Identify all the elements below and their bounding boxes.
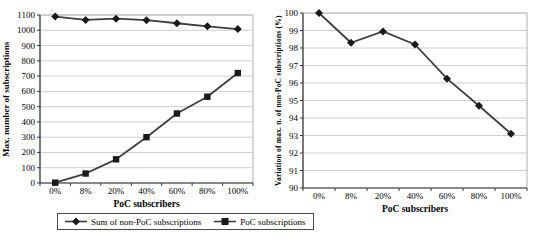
svg-text:95: 95 <box>289 96 299 106</box>
diamond-marker-icon <box>379 27 387 35</box>
svg-text:80%: 80% <box>199 186 216 196</box>
chart-panel-max-subscriptions: Max. number of subscriptions 01002003004… <box>0 0 272 241</box>
svg-text:800: 800 <box>22 56 36 66</box>
svg-text:80%: 80% <box>471 191 488 201</box>
svg-text:96: 96 <box>289 78 299 88</box>
svg-text:60%: 60% <box>169 186 186 196</box>
svg-text:99: 99 <box>289 26 299 36</box>
svg-text:93: 93 <box>289 131 299 141</box>
diamond-marker-icon <box>51 13 59 21</box>
svg-text:8%: 8% <box>80 186 93 196</box>
svg-text:300: 300 <box>22 132 36 142</box>
diamond-marker-icon <box>143 16 151 24</box>
svg-text:100%: 100% <box>227 186 249 196</box>
svg-text:91: 91 <box>289 166 298 176</box>
x-axis-label: PoC subscribers <box>113 199 180 209</box>
svg-text:900: 900 <box>22 41 36 51</box>
diamond-marker-icon <box>203 22 211 30</box>
square-marker-icon <box>174 110 180 116</box>
square-marker-icon <box>113 156 119 162</box>
gridlines <box>37 15 253 183</box>
diamond-marker-icon <box>234 25 242 33</box>
y-tick-labels: 010020030040050060070080090010001100 <box>17 10 36 188</box>
square-marker-icon <box>52 179 58 185</box>
square-marker-icon <box>214 217 236 226</box>
two-panel-line-chart-figure: Max. number of subscriptions 01002003004… <box>0 0 544 241</box>
svg-text:92: 92 <box>289 148 298 158</box>
square-marker-icon <box>204 94 210 100</box>
svg-text:94: 94 <box>289 113 299 123</box>
legend-item-non-poc: Sum of non-PoC subscriptions <box>65 217 201 227</box>
series-square <box>52 70 241 186</box>
plot-area-right: 909192939495969798991000%8%20%40%60%80%1… <box>272 0 544 225</box>
plot-border <box>40 15 253 183</box>
square-marker-icon <box>143 134 149 140</box>
x-tick-labels: 0%8%20%40%60%80%100% <box>313 191 522 201</box>
plot-area-left: 0100200300400500600700800900100011000%8%… <box>0 0 272 212</box>
svg-text:100: 100 <box>22 163 36 173</box>
gridlines <box>300 13 527 188</box>
diamond-marker-icon <box>65 217 87 226</box>
svg-text:500: 500 <box>22 102 36 112</box>
axes <box>40 15 253 186</box>
svg-text:0%: 0% <box>313 191 326 201</box>
svg-text:400: 400 <box>22 117 36 127</box>
svg-text:40%: 40% <box>138 186 155 196</box>
svg-text:97: 97 <box>289 61 299 71</box>
svg-text:1000: 1000 <box>17 25 36 35</box>
svg-text:98: 98 <box>289 43 299 53</box>
chart-panel-variation-non-poc: Variation of max. n. of non-PoC subscrip… <box>272 0 544 241</box>
svg-text:1100: 1100 <box>17 10 35 20</box>
svg-text:100: 100 <box>285 8 299 18</box>
svg-text:200: 200 <box>22 147 36 157</box>
svg-text:100%: 100% <box>501 191 523 201</box>
square-marker-icon <box>82 170 88 176</box>
svg-text:20%: 20% <box>375 191 392 201</box>
legend-label-non-poc: Sum of non-PoC subscriptions <box>91 217 201 227</box>
svg-text:90: 90 <box>289 183 299 193</box>
svg-text:0: 0 <box>31 178 36 188</box>
svg-text:600: 600 <box>22 86 36 96</box>
y-tick-labels: 90919293949596979899100 <box>285 8 299 193</box>
svg-text:60%: 60% <box>439 191 456 201</box>
diamond-marker-icon <box>173 19 181 27</box>
svg-text:20%: 20% <box>108 186 125 196</box>
svg-text:0%: 0% <box>49 186 62 196</box>
x-axis-label: PoC subscribers <box>382 204 449 214</box>
diamond-marker-icon <box>112 15 120 23</box>
square-marker-icon <box>235 70 241 76</box>
x-tick-labels: 0%8%20%40%60%80%100% <box>49 186 249 196</box>
diamond-marker-icon <box>82 16 90 24</box>
svg-text:40%: 40% <box>407 191 424 201</box>
svg-text:700: 700 <box>22 71 36 81</box>
svg-text:8%: 8% <box>345 191 358 201</box>
axes <box>303 13 527 191</box>
